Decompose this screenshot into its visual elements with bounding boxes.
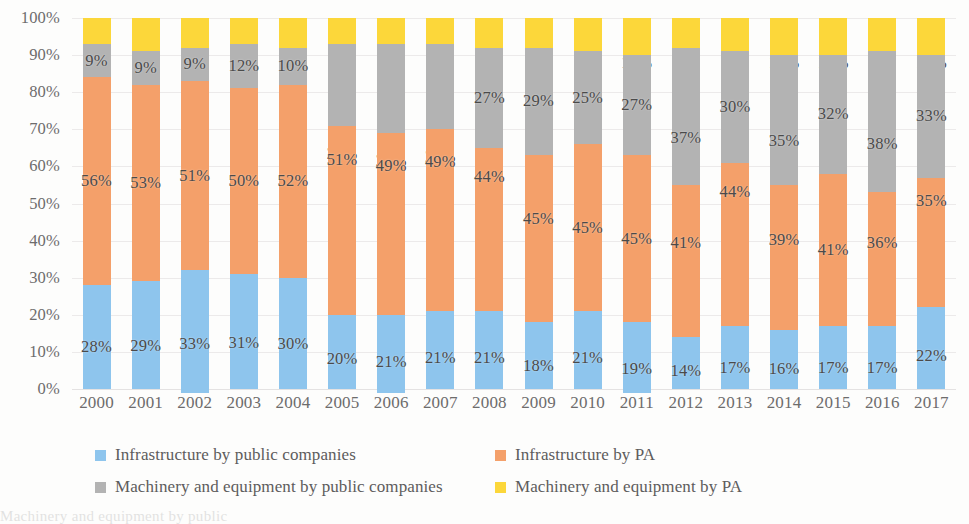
bar-slot: 8%9%51%33% (170, 18, 219, 389)
bar-segment[interactable]: 35% (917, 178, 945, 308)
bar-segment[interactable]: 38% (868, 51, 896, 192)
bar-stack[interactable]: 8%29%45%18% (525, 18, 553, 389)
bar-segment[interactable]: 18% (525, 322, 553, 389)
bar-segment[interactable]: 7% (377, 18, 405, 44)
bar-segment[interactable]: 50% (230, 88, 258, 274)
bar-segment[interactable]: 8% (672, 18, 700, 48)
bar-segment[interactable]: 27% (475, 48, 503, 148)
bar-segment[interactable]: 51% (181, 81, 209, 270)
bar-segment[interactable]: 19% (623, 322, 651, 392)
legend-label: Infrastructure by PA (515, 445, 655, 465)
bar-segment[interactable]: 8% (279, 18, 307, 48)
bar-segment-label: 45% (523, 209, 554, 229)
bar-segment[interactable]: 30% (721, 51, 749, 162)
legend-item[interactable]: Machinery and equipment by public compan… (95, 477, 495, 497)
bar-segment[interactable]: 41% (819, 174, 847, 326)
bar-segment[interactable]: 21% (574, 311, 602, 389)
bar-segment[interactable]: 39% (770, 185, 798, 330)
bar-segment[interactable]: 21% (426, 311, 454, 389)
bar-segment[interactable]: 10% (819, 18, 847, 55)
bar-segment[interactable]: 9% (132, 18, 160, 51)
bar-segment[interactable]: 32% (819, 55, 847, 174)
legend-item[interactable]: Infrastructure by PA (495, 445, 885, 465)
bar-stack[interactable]: 10%33%35%22% (917, 18, 945, 389)
bar-segment[interactable]: 8% (181, 18, 209, 48)
bar-segment[interactable]: 8% (475, 18, 503, 48)
bar-segment[interactable]: 17% (819, 326, 847, 389)
bar-stack[interactable]: 9%9%53%29% (132, 18, 160, 389)
bar-segment[interactable]: 7% (83, 18, 111, 44)
bar-stack[interactable]: 7%23%49%21% (426, 18, 454, 389)
bar-stack[interactable]: 7%24%49%21% (377, 18, 405, 389)
bar-segment[interactable]: 9% (721, 18, 749, 51)
bar-segment[interactable]: 33% (917, 55, 945, 177)
bar-segment[interactable]: 45% (525, 155, 553, 322)
bar-segment[interactable]: 21% (475, 311, 503, 389)
bar-segment[interactable]: 17% (721, 326, 749, 389)
bar-stack[interactable]: 10%35%39%16% (770, 18, 798, 389)
bar-segment[interactable]: 22% (328, 44, 356, 126)
bar-segment[interactable]: 14% (672, 337, 700, 389)
bar-segment[interactable]: 9% (181, 48, 209, 81)
bar-segment[interactable]: 56% (83, 77, 111, 285)
bar-segment[interactable]: 7% (328, 18, 356, 44)
bar-segment[interactable]: 10% (623, 18, 651, 55)
bar-segment[interactable]: 17% (868, 326, 896, 389)
bar-stack[interactable]: 9%25%45%21% (574, 18, 602, 389)
bar-segment[interactable]: 24% (377, 44, 405, 133)
bar-stack[interactable]: 7%12%50%31% (230, 18, 258, 389)
bar-segment-label: 21% (474, 348, 505, 368)
bar-segment[interactable]: 28% (83, 285, 111, 389)
bar-segment[interactable]: 12% (230, 44, 258, 89)
bar-segment[interactable]: 9% (868, 18, 896, 51)
bar-series-group: 7%9%56%28%9%9%53%29%8%9%51%33%7%12%50%31… (72, 18, 956, 389)
bar-segment[interactable]: 49% (426, 129, 454, 311)
bar-segment[interactable]: 10% (917, 18, 945, 55)
bar-segment[interactable]: 33% (181, 270, 209, 392)
bar-segment[interactable]: 22% (917, 307, 945, 389)
bar-segment[interactable]: 20% (328, 315, 356, 389)
bar-segment[interactable]: 51% (328, 126, 356, 315)
bar-stack[interactable]: 8%9%51%33% (181, 18, 209, 389)
bar-segment[interactable]: 37% (672, 48, 700, 185)
bar-segment[interactable]: 9% (83, 44, 111, 77)
bar-stack[interactable]: 7%9%56%28% (83, 18, 111, 389)
bar-segment[interactable]: 52% (279, 85, 307, 278)
bar-segment[interactable]: 16% (770, 330, 798, 389)
legend-item[interactable]: Infrastructure by public companies (95, 445, 495, 465)
bar-segment[interactable]: 53% (132, 85, 160, 282)
bar-segment[interactable]: 35% (770, 55, 798, 185)
bar-segment[interactable]: 44% (721, 163, 749, 326)
bar-stack[interactable]: 9%38%36%17% (868, 18, 896, 389)
bar-segment[interactable]: 27% (623, 55, 651, 155)
bar-segment[interactable]: 7% (230, 18, 258, 44)
bar-segment[interactable]: 21% (377, 315, 405, 393)
bar-segment[interactable]: 49% (377, 133, 405, 315)
bar-segment[interactable]: 9% (574, 18, 602, 51)
bar-segment[interactable]: 41% (672, 185, 700, 337)
bar-segment[interactable]: 44% (475, 148, 503, 311)
bar-stack[interactable]: 10%32%41%17% (819, 18, 847, 389)
bar-segment[interactable]: 45% (623, 155, 651, 322)
bar-segment[interactable]: 7% (426, 18, 454, 44)
bar-stack[interactable]: 8%27%44%21% (475, 18, 503, 389)
bar-segment[interactable]: 23% (426, 44, 454, 129)
bar-stack[interactable]: 8%37%41%14% (672, 18, 700, 389)
bar-segment[interactable]: 29% (132, 281, 160, 389)
legend-item[interactable]: Machinery and equipment by PA (495, 477, 885, 497)
bar-segment[interactable]: 10% (770, 18, 798, 55)
bar-segment[interactable]: 8% (525, 18, 553, 48)
bar-segment[interactable]: 45% (574, 144, 602, 311)
bar-segment[interactable]: 25% (574, 51, 602, 144)
bar-stack[interactable]: 10%27%45%19% (623, 18, 651, 389)
bar-segment[interactable]: 36% (868, 192, 896, 326)
bar-segment[interactable]: 31% (230, 274, 258, 389)
bar-stack[interactable]: 7%22%51%20% (328, 18, 356, 389)
bar-segment[interactable]: 30% (279, 278, 307, 389)
bar-segment[interactable]: 10% (279, 48, 307, 85)
bar-stack[interactable]: 9%30%44%17% (721, 18, 749, 389)
x-axis-tick-label-2010: 2010 (563, 393, 612, 427)
bar-stack[interactable]: 8%10%52%30% (279, 18, 307, 389)
bar-segment[interactable]: 29% (525, 48, 553, 156)
bar-segment[interactable]: 9% (132, 51, 160, 84)
